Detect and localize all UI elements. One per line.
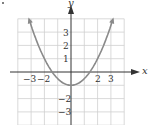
x-axis-label: x [142, 66, 148, 76]
y-tick-label: −2 [58, 95, 71, 104]
x-tick-label: −3 [23, 75, 36, 84]
curve-arrow-icon [28, 17, 33, 24]
x-tick-label: 2 [95, 75, 101, 84]
x-tick-label: 3 [108, 75, 114, 84]
curve-arrow-icon [109, 17, 114, 24]
y-axis-label: y [68, 0, 74, 8]
x-axis-arrow-icon [131, 69, 140, 75]
x-tick-label: −2 [37, 75, 50, 84]
y-tick-label: 3 [63, 29, 69, 38]
y-tick-label: 1 [63, 55, 69, 64]
graph-plot [0, 0, 152, 125]
y-tick-label: 2 [63, 42, 69, 51]
y-tick-label: −3 [58, 108, 71, 117]
